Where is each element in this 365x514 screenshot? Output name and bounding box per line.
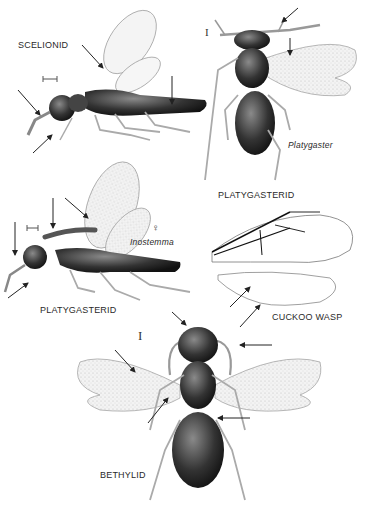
- label-bethylid: BETHYLID: [100, 470, 146, 480]
- label-platygasterid-top: PLATYGASTERID: [218, 190, 294, 200]
- platygasterid-inostemma-illustration: [5, 155, 190, 300]
- insect-illustrations: I: [0, 0, 365, 514]
- label-cuckoo-wasp: CUCKOO WASP: [272, 312, 342, 322]
- svg-text:I: I: [205, 26, 209, 38]
- cuckoo-wasp-wing-illustration: [212, 212, 353, 327]
- label-platygasterid-left: PLATYGASTERID: [40, 305, 116, 315]
- svg-text:I: I: [138, 328, 142, 343]
- platygasterid-dorsal-illustration: I: [205, 8, 356, 180]
- illustration-plate: I: [0, 0, 365, 514]
- label-platygaster-genus: Platygaster: [288, 140, 333, 150]
- scelionid-illustration: [18, 1, 207, 153]
- female-symbol: ♀: [152, 222, 160, 233]
- label-scelionid: SCELIONID: [18, 40, 68, 50]
- label-inostemma-genus: Inostemma: [130, 237, 174, 247]
